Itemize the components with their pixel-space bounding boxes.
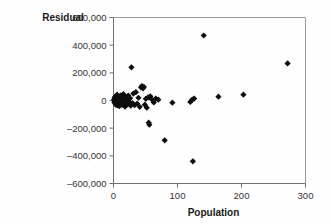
residual-vs-population-chart: –600,000–400,000–200,0000200,000400,0006… (0, 0, 331, 224)
plot-axes-spines (114, 18, 306, 184)
y-axis-tick-label: –400,000 (67, 150, 107, 161)
data-point-series (111, 32, 291, 164)
data-point (201, 32, 207, 38)
data-point (215, 94, 221, 100)
x-axis-tick-label: 100 (170, 190, 186, 201)
data-point (240, 92, 246, 98)
data-point (169, 100, 175, 106)
data-point (128, 64, 134, 70)
data-point (284, 60, 290, 66)
data-point (135, 95, 141, 101)
y-axis-label: Residual (42, 12, 84, 23)
x-axis-tick-label: 0 (111, 190, 116, 201)
x-axis-tick-label: 300 (298, 190, 314, 201)
y-axis-tick-label: 400,000 (72, 40, 106, 51)
y-axis-tick-label: 200,000 (72, 67, 106, 78)
y-axis-tick-label: –200,000 (67, 123, 107, 134)
data-point (162, 137, 168, 143)
plot-frame (114, 18, 306, 184)
x-axis-label: Population (188, 207, 240, 218)
y-axis-tick-label: –600,000 (67, 178, 107, 189)
y-axis-tick-label: 0 (101, 95, 106, 106)
data-point (190, 158, 196, 164)
scatter-plot-figure: –600,000–400,000–200,0000200,000400,0006… (0, 0, 331, 224)
x-axis-tick-label: 200 (234, 190, 250, 201)
